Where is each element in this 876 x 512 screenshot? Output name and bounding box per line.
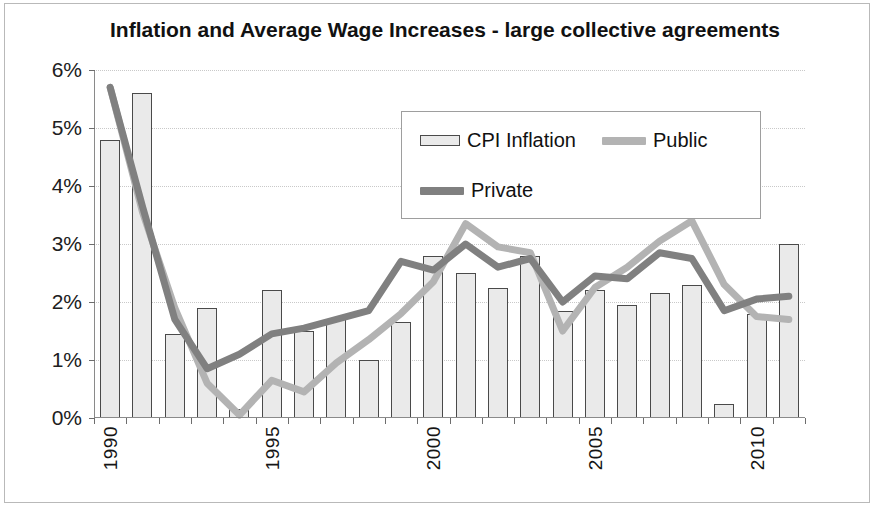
y-axis-tick-label: 3% bbox=[52, 232, 82, 256]
x-axis-tick bbox=[482, 418, 483, 424]
x-axis-tick bbox=[223, 418, 224, 424]
legend-item-private: Private bbox=[420, 179, 533, 202]
x-axis-tick bbox=[450, 418, 451, 424]
legend-label-cpi-inflation: CPI Inflation bbox=[467, 129, 576, 152]
x-axis-tick bbox=[708, 418, 709, 424]
x-axis-tick bbox=[676, 418, 677, 424]
x-axis-tick-label: 1990 bbox=[100, 426, 122, 470]
y-axis-tick-label: 6% bbox=[52, 58, 82, 82]
y-axis-tick-label: 1% bbox=[52, 348, 82, 372]
legend-item-cpi-inflation: CPI Inflation bbox=[420, 129, 576, 152]
x-axis-tick-label: 2005 bbox=[585, 426, 607, 470]
y-axis-tick bbox=[89, 128, 95, 129]
y-axis-tick bbox=[89, 302, 95, 303]
x-axis-tick bbox=[740, 418, 741, 424]
x-axis-tick bbox=[94, 418, 95, 424]
y-axis-tick bbox=[89, 244, 95, 245]
legend-bar-swatch-icon bbox=[420, 135, 460, 146]
x-axis-tick bbox=[191, 418, 192, 424]
x-axis-tick bbox=[320, 418, 321, 424]
x-axis-tick bbox=[353, 418, 354, 424]
x-axis-tick bbox=[546, 418, 547, 424]
x-axis-tick bbox=[256, 418, 257, 424]
y-axis-tick-label: 2% bbox=[52, 290, 82, 314]
chart-frame: Inflation and Average Wage Increases - l… bbox=[4, 3, 870, 503]
chart-title: Inflation and Average Wage Increases - l… bbox=[75, 18, 815, 43]
chart-legend: CPI Inflation Public Private bbox=[401, 111, 761, 219]
x-axis-tick bbox=[579, 418, 580, 424]
y-axis-tick-label: 0% bbox=[52, 406, 82, 430]
x-axis-tick bbox=[159, 418, 160, 424]
x-axis-tick bbox=[288, 418, 289, 424]
x-axis-tick bbox=[773, 418, 774, 424]
x-axis-tick-label: 2010 bbox=[747, 426, 769, 470]
x-axis-tick bbox=[805, 418, 806, 424]
y-axis-tick bbox=[89, 70, 95, 71]
x-axis-tick bbox=[126, 418, 127, 424]
legend-line-swatch-private-icon bbox=[420, 187, 464, 195]
x-axis-tick-label: 2000 bbox=[423, 426, 445, 470]
y-axis-tick-label: 4% bbox=[52, 174, 82, 198]
x-axis-tick bbox=[514, 418, 515, 424]
y-axis-tick bbox=[89, 360, 95, 361]
y-axis-tick-label: 5% bbox=[52, 116, 82, 140]
x-axis-tick bbox=[417, 418, 418, 424]
x-axis-tick bbox=[385, 418, 386, 424]
legend-label-public: Public bbox=[653, 129, 707, 152]
x-axis-tick bbox=[611, 418, 612, 424]
x-axis-tick bbox=[643, 418, 644, 424]
y-axis-tick bbox=[89, 186, 95, 187]
legend-label-private: Private bbox=[471, 179, 533, 202]
legend-line-swatch-public-icon bbox=[602, 137, 646, 145]
x-axis-tick-label: 1995 bbox=[262, 426, 284, 470]
legend-item-public: Public bbox=[602, 129, 707, 152]
